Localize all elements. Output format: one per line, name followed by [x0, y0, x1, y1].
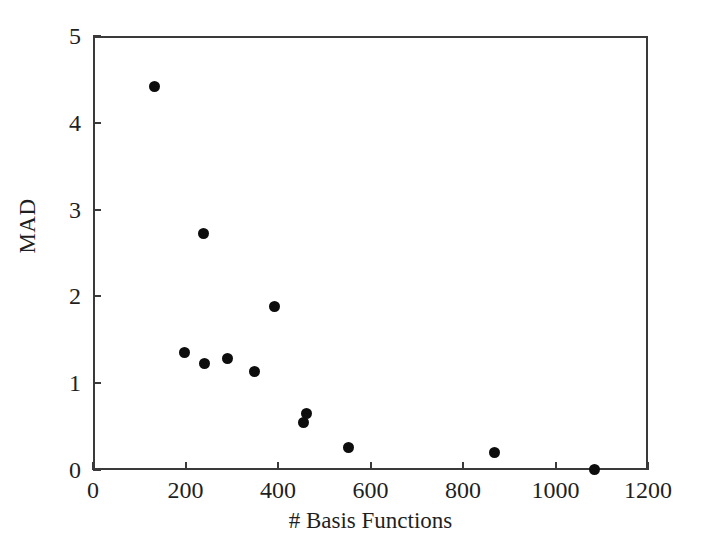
y-axis-title-wrapper: MAD — [15, 136, 41, 316]
y-tick-label: 0 — [33, 456, 81, 484]
y-tick-label: 4 — [33, 109, 81, 137]
scatter-plot-figure: 020040060080010001200 012345 # Basis Fun… — [0, 0, 701, 553]
data-point — [179, 347, 190, 358]
y-tick-label: 5 — [33, 22, 81, 50]
x-tick-label: 1200 — [588, 476, 701, 504]
data-point — [198, 228, 209, 239]
data-point — [343, 442, 354, 453]
y-axis-title: MAD — [15, 198, 40, 253]
x-axis-title: # Basis Functions — [93, 508, 648, 534]
data-point — [489, 447, 500, 458]
data-point — [149, 81, 160, 92]
data-point — [222, 353, 233, 364]
data-point — [589, 464, 600, 475]
data-point — [199, 358, 210, 369]
data-point — [301, 408, 312, 419]
data-point — [269, 301, 280, 312]
data-point — [249, 366, 260, 377]
y-tick-label: 1 — [33, 369, 81, 397]
data-points-layer — [93, 36, 648, 470]
